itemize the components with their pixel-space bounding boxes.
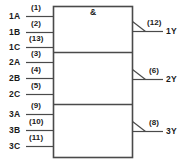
input-pin-number-2c: (5) <box>31 82 41 90</box>
input-pin-number-2b: (4) <box>31 66 41 74</box>
ic-body-outline <box>54 7 133 158</box>
input-pin-number-3a: (9) <box>31 102 41 110</box>
output-marker-2y <box>133 70 146 80</box>
output-signal-label-1y: 1Y <box>166 27 177 36</box>
input-signal-label-3a: 3A <box>9 110 20 119</box>
logic-gate-pinout-diagram: & 1A 1B 1C (1) (2) (13) 2A 2B 2C (3) (4)… <box>0 0 187 166</box>
input-pin-number-1b: (2) <box>31 20 41 28</box>
input-signal-label-1b: 1B <box>9 28 20 37</box>
output-marker-3y <box>133 122 146 132</box>
input-signal-label-1c: 1C <box>9 43 20 52</box>
input-signal-label-2c: 2C <box>9 90 20 99</box>
input-pin-number-2a: (3) <box>31 50 41 58</box>
input-pin-number-1a: (1) <box>31 4 41 12</box>
input-pin-number-3c: (11) <box>29 134 43 142</box>
input-pin-number-1c: (13) <box>29 35 44 43</box>
input-signal-label-2a: 2A <box>9 58 20 67</box>
output-signal-label-3y: 3Y <box>166 127 177 136</box>
input-signal-label-2b: 2B <box>9 74 20 83</box>
input-signal-label-1a: 1A <box>9 12 20 21</box>
output-pin-number-1y: (12) <box>147 19 162 27</box>
output-pin-number-2y: (6) <box>149 67 159 75</box>
and-gate-symbol: & <box>90 8 96 17</box>
output-marker-1y <box>133 22 146 32</box>
input-signal-label-3c: 3C <box>9 142 20 151</box>
output-signal-label-2y: 2Y <box>166 75 177 84</box>
input-signal-label-3b: 3B <box>9 126 20 135</box>
input-pin-number-3b: (10) <box>29 118 44 126</box>
output-pin-number-3y: (8) <box>149 119 159 127</box>
